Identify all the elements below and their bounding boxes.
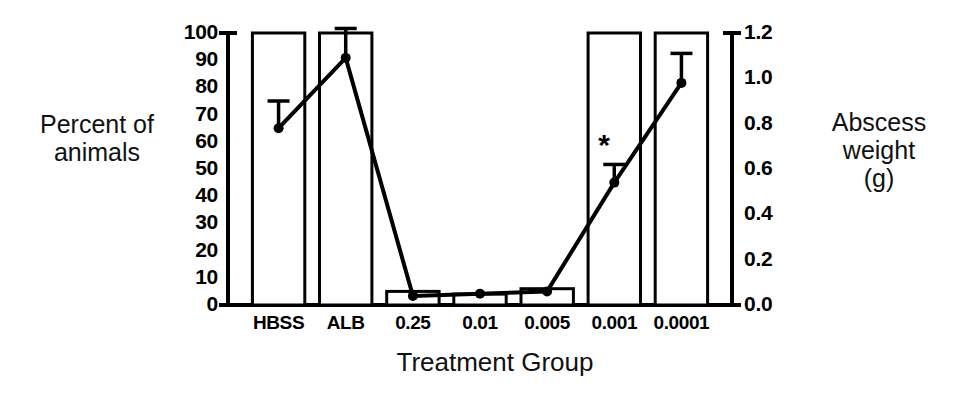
left-tick-60: 60 [150, 129, 218, 153]
right-tick-1.2: 1.2 [744, 20, 824, 44]
right-tick-0.2: 0.2 [744, 247, 824, 271]
left-tick-30: 30 [150, 210, 218, 234]
left-tick-100: 100 [150, 20, 218, 44]
x-tick-0.0001: 0.0001 [642, 312, 721, 334]
data-point-0.001 [609, 178, 619, 188]
left-tick-20: 20 [150, 238, 218, 262]
data-point-0.01 [475, 289, 485, 299]
right-tick-0.4: 0.4 [744, 201, 824, 225]
abscess-weight-chart: Percent of animals Abscess weight (g) Tr… [0, 0, 967, 400]
plot-canvas [0, 0, 967, 400]
right-tick-1.0: 1.0 [744, 65, 824, 89]
left-tick-70: 70 [150, 102, 218, 126]
right-tick-0.0: 0.0 [744, 292, 824, 316]
data-point-ALB [341, 53, 351, 63]
significance-asterisk: * [598, 130, 610, 160]
left-tick-40: 40 [150, 183, 218, 207]
left-tick-0: 0 [150, 292, 218, 316]
left-tick-80: 80 [150, 74, 218, 98]
bar-HBSS [252, 33, 304, 305]
bar-ALB [320, 33, 372, 305]
data-point-HBSS [274, 123, 284, 133]
data-point-0.0001 [676, 78, 686, 88]
left-tick-10: 10 [150, 265, 218, 289]
right-tick-0.6: 0.6 [744, 156, 824, 180]
data-point-0.005 [542, 286, 552, 296]
left-tick-90: 90 [150, 47, 218, 71]
left-tick-50: 50 [150, 156, 218, 180]
data-point-0.25 [408, 291, 418, 301]
right-tick-0.8: 0.8 [744, 111, 824, 135]
